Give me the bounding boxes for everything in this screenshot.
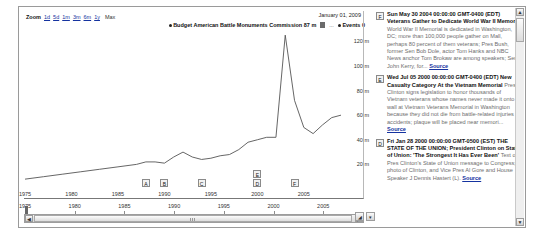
event-marker-e[interactable]: E	[253, 170, 261, 178]
events-panel[interactable]: FSun May 30 2004 00:00:00 GMT-0400 (EDT)…	[372, 7, 526, 227]
navigator-tick: 1995	[218, 203, 230, 209]
event-source-link[interactable]: Source	[387, 126, 406, 132]
x-axis-tick: 1975	[19, 191, 31, 197]
events-scroll-down-icon[interactable]: ▼	[516, 218, 524, 226]
y-axis-tick: 80 m	[357, 88, 369, 94]
event-badge-e[interactable]: E	[376, 75, 384, 83]
event-datetime: Sun May 30 2004 00:00:00 GMT-0400 (EDT)	[387, 11, 500, 17]
y-axis-tick: 20 m	[357, 161, 369, 167]
timeline-chart-widget: Zoom 1d 5d 1m 3m 6m 1y Max January 01, 2…	[18, 6, 526, 228]
event-list-item[interactable]: EWed Jul 05 2000 00:00:00 GMT-0400 (EDT)…	[376, 74, 522, 133]
event-title: Veterans Gather to Dedicate World War II…	[387, 18, 522, 24]
y-axis-tick: 100 m	[354, 63, 369, 69]
event-marker-d[interactable]: D	[253, 179, 261, 187]
chart-x-axis: 1975198019851990199520002005	[25, 191, 341, 201]
event-datetime: Fri Jan 28 2000 00:00:00 GMT-0500 (EST)	[387, 138, 497, 144]
scroll-thumb-grip-icon	[190, 218, 196, 221]
x-axis-tick: 1980	[65, 191, 77, 197]
chart-plot-area[interactable]: ABCDEF	[25, 29, 341, 189]
scroll-left-arrow-icon[interactable]: ◀	[25, 215, 33, 222]
event-marker-a[interactable]: A	[142, 179, 150, 187]
event-body: Fri Jan 28 2000 00:00:00 GMT-0500 (EST) …	[387, 138, 522, 182]
x-axis-tick: 1995	[205, 191, 217, 197]
chart-y-axis: 120 m100 m80 m60 m40 m20 m	[341, 29, 371, 189]
event-source-link[interactable]: Source	[462, 175, 481, 181]
event-badge-d[interactable]: D	[376, 139, 384, 147]
chart-column: Zoom 1d 5d 1m 3m 6m 1y Max January 01, 2…	[19, 7, 371, 227]
x-axis-tick: 1990	[158, 191, 170, 197]
event-badge-f[interactable]: F	[376, 12, 384, 20]
navigator-tick: 1980	[69, 203, 81, 209]
scroll-thumb[interactable]	[34, 215, 352, 222]
event-description: Pres Clinton signs legislation to honor …	[387, 82, 520, 125]
x-axis-tick: 1985	[112, 191, 124, 197]
x-axis-tick: 2000	[251, 191, 263, 197]
y-axis-tick: 40 m	[357, 137, 369, 143]
navigator-tick: 1990	[168, 203, 180, 209]
y-axis-tick: 60 m	[357, 112, 369, 118]
range-navigator[interactable]: 1975198019851990199520002005	[24, 203, 364, 214]
event-marker-f[interactable]: F	[291, 179, 299, 187]
navigator-tick: 2000	[267, 203, 279, 209]
event-body: Sun May 30 2004 00:00:00 GMT-0400 (EDT) …	[387, 11, 522, 70]
navigator-tick: 1985	[118, 203, 130, 209]
event-marker-b[interactable]: B	[160, 179, 168, 187]
event-marker-c[interactable]: C	[198, 179, 206, 187]
event-list-item[interactable]: FSun May 30 2004 00:00:00 GMT-0400 (EDT)…	[376, 11, 522, 70]
y-axis-tick: 120 m	[354, 38, 369, 44]
chart-line-svg	[25, 29, 341, 189]
horizontal-scrollbar[interactable]: ◀ ▶	[24, 214, 364, 223]
series-line-path	[25, 35, 341, 179]
events-scroll-thumb[interactable]	[516, 18, 524, 42]
screenshot-root: Zoom 1d 5d 1m 3m 6m 1y Max January 01, 2…	[0, 0, 544, 235]
event-description: World War II Memorial is dedicated in Wa…	[387, 26, 517, 69]
event-body: Wed Jul 05 2000 00:00:00 GMT-0400 (EDT) …	[387, 74, 522, 133]
event-list-item[interactable]: DFri Jan 28 2000 00:00:00 GMT-0500 (EST)…	[376, 138, 522, 182]
events-vertical-scrollbar[interactable]: ▲ ▼	[515, 8, 524, 226]
event-source-link[interactable]: Source	[429, 63, 448, 69]
x-axis-tick: 2005	[298, 191, 310, 197]
navigator-tick: 2005	[317, 203, 329, 209]
resize-handle-icon[interactable]: ◢	[355, 212, 364, 221]
events-scroll-up-icon[interactable]: ▲	[516, 8, 524, 16]
event-datetime: Wed Jul 05 2000 00:00:00 GMT-0400 (EDT)	[387, 74, 500, 80]
